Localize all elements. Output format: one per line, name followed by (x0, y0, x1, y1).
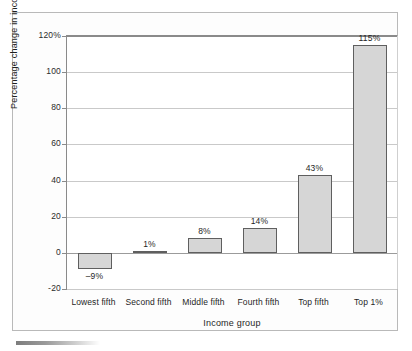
x-category-label-5: Top 1% (333, 297, 405, 307)
bar-middle-fifth[interactable] (188, 238, 222, 252)
bar-fourth-fifth[interactable] (243, 228, 277, 253)
gridline-0 (67, 253, 397, 254)
bar-value-label-0: –9% (65, 271, 125, 281)
y-tick-label-0: 0 (56, 247, 61, 257)
bar-value-label-1: 1% (120, 239, 180, 249)
y-tick-mark-40 (62, 181, 67, 182)
figure-frame: -20020406080100120% Percentage change in… (12, 12, 398, 331)
bar-top-1-[interactable] (353, 45, 387, 253)
y-tick-label-100: 100 (46, 66, 61, 76)
gridline-60 (67, 144, 397, 145)
bar-value-label-4: 43% (285, 163, 345, 173)
bar-lowest-fifth[interactable] (78, 253, 112, 269)
y-tick-label-80: 80 (51, 102, 61, 112)
gridline-100 (67, 72, 397, 73)
bar-value-label-3: 14% (230, 216, 290, 226)
y-tick-mark-120 (62, 36, 67, 37)
x-axis-title: Income group (66, 318, 398, 328)
y-axis-title: Percentage change in income (9, 0, 19, 109)
bar-top-fifth[interactable] (298, 175, 332, 253)
y-tick-mark-60 (62, 144, 67, 145)
y-tick-mark-20 (62, 217, 67, 218)
y-tick-label-40: 40 (51, 175, 61, 185)
y-tick-mark-0 (62, 253, 67, 254)
gridline-80 (67, 108, 397, 109)
y-tick-label-60: 60 (51, 138, 61, 148)
bar-value-label-5: 115% (340, 33, 400, 43)
gridline--20 (67, 289, 397, 290)
y-tick-label--20: -20 (48, 283, 61, 293)
scan-artifact-strip (16, 341, 100, 345)
bar-second-fifth[interactable] (133, 251, 167, 253)
plot-area: –9%1%8%14%43%115% (66, 35, 398, 289)
bar-value-label-2: 8% (175, 226, 235, 236)
y-axis-tick-labels: -20020406080100120% (13, 35, 61, 289)
y-tick-mark-80 (62, 108, 67, 109)
y-tick-label-120: 120% (38, 30, 61, 40)
y-tick-label-20: 20 (51, 211, 61, 221)
y-tick-mark--20 (62, 289, 67, 290)
y-tick-mark-100 (62, 72, 67, 73)
gridline-40 (67, 181, 397, 182)
